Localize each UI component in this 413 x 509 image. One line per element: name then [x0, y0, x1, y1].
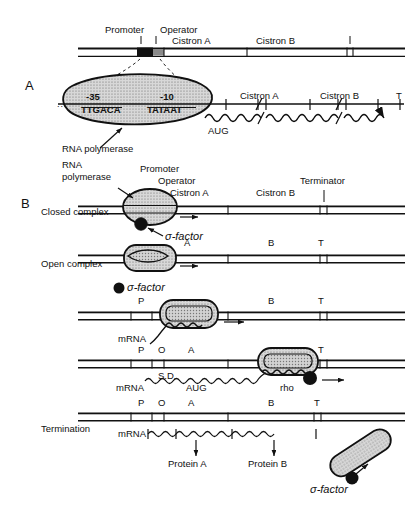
- label-protein-a: Protein A: [168, 459, 207, 469]
- label-site-p-term: P: [138, 398, 144, 408]
- promoter-box: [137, 48, 153, 58]
- mrna-gap-1: [258, 112, 264, 124]
- label-site-t-term: T: [314, 398, 320, 408]
- mrna-gap-2: [336, 112, 342, 124]
- mrna-tail: [150, 326, 166, 344]
- label-site-b-open: B: [268, 238, 274, 248]
- label-promoter-top: Promoter: [105, 25, 144, 35]
- label-cistron-a-top: Cistron A: [172, 36, 211, 46]
- panelB-row-closed-complex: [78, 188, 405, 236]
- label-cistron-a-expanded: Cistron A: [240, 91, 279, 101]
- label-state-open-complex: Open complex: [41, 259, 102, 269]
- label-site-p-late: P: [138, 345, 144, 355]
- dna-strand-bottom: [78, 420, 405, 422]
- panelB-row-elongation-late: [78, 348, 405, 385]
- sigma-leader-arrow: [148, 228, 163, 236]
- label-site-a-late: A: [188, 345, 194, 355]
- panelB-row-termination: [78, 413, 405, 485]
- dna-strand-bottom: [78, 319, 405, 321]
- label-operator-top: Operator: [160, 25, 198, 35]
- transcription-bubble: [166, 306, 212, 321]
- dna-strand-top: [78, 413, 405, 415]
- label-site-t-open: T: [318, 238, 324, 248]
- mrna-free-strand: [148, 432, 274, 437]
- label-site-t-early: T: [318, 296, 324, 306]
- label-protein-b: Protein B: [248, 459, 287, 469]
- label-minus10-sequence: TATAAT: [147, 105, 182, 115]
- label-operator-b: Operator: [158, 176, 196, 186]
- label-cistron-b-top: Cistron B: [256, 36, 295, 46]
- rna-polymerase-released: [326, 425, 395, 480]
- panel-label-a: A: [25, 81, 34, 91]
- dna-strand-top: [78, 48, 405, 50]
- label-cistron-b-expanded: Cistron B: [320, 91, 359, 101]
- label-rna-polymerase-b-line1: RNA: [62, 160, 82, 170]
- label-rho: rho: [280, 383, 294, 393]
- label-state-termination: Termination: [41, 424, 90, 434]
- dna-strand-bottom: [78, 367, 405, 369]
- mrna-wave-2: [266, 115, 338, 122]
- label-upstream-ellipsis: ...: [57, 99, 68, 109]
- panel-label-b: B: [21, 199, 30, 209]
- label-sigma-factor-released: σ-factor: [310, 484, 348, 494]
- label-shine-dalgarno: S.D.: [158, 371, 176, 381]
- label-site-a-term: A: [188, 398, 194, 408]
- label-cistron-b-b: Cistron B: [256, 188, 295, 198]
- label-site-p-early: P: [138, 296, 144, 306]
- label-mrna-term: mRNA: [118, 429, 146, 439]
- dna-strand-top: [78, 312, 405, 314]
- sigma-factor-dot: [135, 218, 147, 230]
- label-site-o-term: O: [158, 398, 165, 408]
- label-minus35: -35: [86, 92, 100, 102]
- label-state-closed-complex: Closed complex: [41, 207, 109, 217]
- dna-strand-bottom: [78, 56, 405, 58]
- label-aug-expanded: AUG: [208, 126, 229, 136]
- operator-box: [153, 50, 164, 56]
- label-site-t-late: T: [318, 345, 324, 355]
- label-aug-late: AUG: [186, 383, 207, 393]
- label-sigma-factor-open: σ-factor: [127, 282, 165, 292]
- label-minus35-sequence: TTGACA: [81, 105, 121, 115]
- label-mrna-late: mRNA: [116, 383, 144, 393]
- dna-duplex-body: [78, 50, 405, 56]
- label-mrna-early: mRNA: [118, 334, 146, 344]
- label-site-a-open: A: [184, 238, 190, 248]
- mrna-wave-3: [344, 115, 384, 122]
- transcription-bubble: [264, 354, 312, 368]
- label-site-b-early: B: [268, 296, 274, 306]
- dna-strand-top: [78, 360, 405, 362]
- label-terminator-b: Terminator: [300, 176, 345, 186]
- label-minus10: -10: [160, 92, 174, 102]
- label-rna-polymerase-a: RNA polymerase: [62, 144, 133, 154]
- sigma-factor-dot: [114, 283, 125, 294]
- polymerase-leader-arrow: [118, 188, 133, 198]
- label-site-b-term: B: [268, 398, 274, 408]
- label-promoter-b: Promoter: [140, 164, 179, 174]
- label-site-o-late: O: [158, 345, 165, 355]
- label-terminator-expanded: T: [396, 91, 402, 101]
- rho-protein: [303, 371, 317, 385]
- mrna-wave-1: [205, 115, 261, 122]
- rna-polymerase-closed: [123, 189, 177, 225]
- label-cistron-a-b: Cistron A: [170, 188, 209, 198]
- label-rna-polymerase-b-line2: polymerase: [62, 172, 111, 182]
